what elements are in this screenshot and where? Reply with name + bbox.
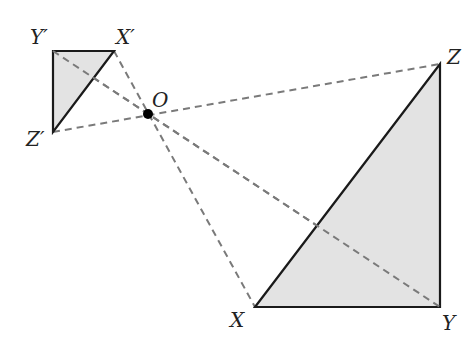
small-triangle [53,51,114,132]
label-z: Z [446,45,462,69]
label-y: Y [442,311,457,335]
label-y-prime: Y′ [30,25,48,49]
line-zprime-z [53,64,440,132]
label-x: X [228,308,245,332]
large-triangle [255,64,440,307]
enlargement-diagram: Y′ X′ Z′ O Z X Y [0,0,472,341]
line-xprime-x [114,51,255,307]
label-x-prime: X′ [114,25,135,49]
label-o: O [152,88,168,112]
label-z-prime: Z′ [25,127,45,151]
